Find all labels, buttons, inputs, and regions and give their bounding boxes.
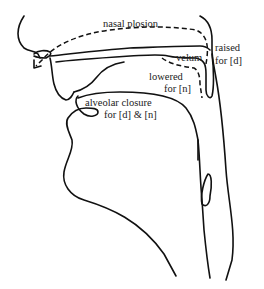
label-lowered-1: lowered <box>149 71 183 82</box>
label-raised-2: for [d] <box>215 55 242 66</box>
alveolar-roof <box>74 62 124 92</box>
label-velum: velum <box>176 52 202 63</box>
label-alveolar-1: alveolar closure <box>85 97 152 108</box>
upper-lip <box>50 58 74 100</box>
lower-lip-chin <box>64 96 176 276</box>
label-alveolar-2: for [d] & [n] <box>104 109 157 120</box>
label-raised-1: raised <box>215 42 240 53</box>
epiglottis <box>201 174 211 206</box>
label-nasal-plosion: nasal plosion <box>103 18 158 29</box>
larynx <box>198 140 210 278</box>
label-lowered-2: for [n] <box>164 83 191 94</box>
